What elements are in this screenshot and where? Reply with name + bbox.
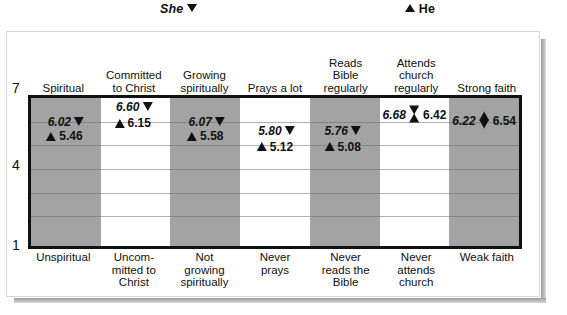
data-point-he: 5.58 <box>187 130 223 142</box>
triangle-down-icon <box>142 102 152 111</box>
triangle-down-icon <box>74 117 84 126</box>
top-category-label-text: Strong faith <box>457 82 516 95</box>
card-shadow-right <box>541 39 546 303</box>
data-point-value-she: 5.76 <box>324 125 347 137</box>
triangle-up-icon <box>324 142 334 151</box>
top-category-label-text: ReadsBibleregularly <box>324 57 368 95</box>
marker-column: 6.226.54 <box>449 98 519 246</box>
y-axis-tick-mid: 4 <box>8 157 24 173</box>
top-category-label-text: Growingspiritually <box>180 69 228 94</box>
triangle-down-icon <box>285 126 295 135</box>
marker-column: 6.025.46 <box>31 98 101 246</box>
triangle-up-icon <box>479 112 489 121</box>
data-point-value-she: 6.22 <box>452 114 475 126</box>
top-category-label-text: Attendschurchregularly <box>394 57 438 95</box>
bottom-category-label: Unspiritual <box>28 249 99 297</box>
triangle-up-icon <box>405 4 415 12</box>
bottom-category-label: Neverprays <box>240 249 311 297</box>
data-point-he: 5.08 <box>324 141 360 153</box>
bottom-category-label: Neverattendschurch <box>381 249 452 297</box>
data-point-he: 5.12 <box>257 141 293 153</box>
triangle-down-icon <box>351 126 361 135</box>
top-category-label: ReadsBibleregularly <box>310 39 381 95</box>
legend-entry-she: She <box>160 2 197 16</box>
legend-label-he: He <box>419 2 435 16</box>
bottom-category-label: Uncom-mitted toChrist <box>99 249 170 297</box>
data-point-value-she: 6.02 <box>48 116 71 128</box>
top-category-label-text: Committedto Christ <box>106 69 162 94</box>
data-point-value-he: 5.12 <box>270 141 293 153</box>
triangle-up-icon <box>257 142 267 151</box>
bottom-category-label: Notgrowingspiritually <box>169 249 240 297</box>
marker-column: 6.606.15 <box>101 98 171 246</box>
data-point-value-he: 5.46 <box>59 130 82 142</box>
top-category-label: Strong faith <box>451 39 522 95</box>
data-point-she: 6.07 <box>189 116 225 128</box>
y-axis-tick-min: 1 <box>8 237 24 253</box>
triangle-up-icon <box>46 132 56 141</box>
diamond-marker-icon <box>479 112 490 129</box>
card-shadow-bottom <box>14 298 546 303</box>
data-point-value-he: 6.54 <box>493 114 516 126</box>
data-point-value-she: 5.80 <box>258 125 281 137</box>
data-point-she: 6.02 <box>48 116 84 128</box>
top-category-label-text: Spiritual <box>43 82 85 95</box>
data-point-value-he: 6.15 <box>128 117 151 129</box>
data-point-value-he: 5.58 <box>200 130 223 142</box>
data-markers: 6.025.466.606.156.075.585.805.125.765.08… <box>31 98 519 246</box>
data-point-combined: 6.686.42 <box>383 106 447 123</box>
data-point-she: 6.60 <box>116 101 152 113</box>
legend-entry-he: He <box>405 2 435 16</box>
data-point-value-he: 6.42 <box>423 108 446 120</box>
data-point-he: 6.15 <box>115 117 151 129</box>
data-point-value-she: 6.68 <box>383 108 406 120</box>
triangle-down-icon <box>479 120 489 129</box>
plot-area: 6.025.466.606.156.075.585.805.125.765.08… <box>28 95 522 249</box>
data-point-she: 5.76 <box>324 125 360 137</box>
data-point-combined: 6.226.54 <box>452 112 516 129</box>
marker-column: 5.765.08 <box>310 98 380 246</box>
triangle-down-icon <box>187 4 197 12</box>
legend-label-she: She <box>160 2 184 16</box>
triangle-up-icon <box>115 119 125 128</box>
data-point-value-she: 6.60 <box>116 101 139 113</box>
hourglass-marker-icon <box>409 106 420 123</box>
top-category-label: Committedto Christ <box>99 39 170 95</box>
marker-column: 5.805.12 <box>240 98 310 246</box>
bottom-category-label: Weak faith <box>451 249 522 297</box>
data-point-value-she: 6.07 <box>189 116 212 128</box>
marker-column: 6.686.42 <box>380 98 450 246</box>
data-point-he: 5.46 <box>46 130 82 142</box>
marker-column: 6.075.58 <box>170 98 240 246</box>
top-category-label: Growingspiritually <box>169 39 240 95</box>
data-point-she: 5.80 <box>258 125 294 137</box>
triangle-up-icon <box>409 114 419 123</box>
triangle-down-icon <box>215 117 225 126</box>
y-axis-tick-max: 7 <box>8 80 24 96</box>
top-category-label-text: Prays a lot <box>248 82 302 95</box>
top-category-labels: SpiritualCommittedto ChristGrowingspirit… <box>28 39 522 95</box>
top-category-label: Prays a lot <box>240 39 311 95</box>
chart-legend: She He <box>0 0 567 30</box>
triangle-up-icon <box>187 132 197 141</box>
bottom-category-labels: UnspiritualUncom-mitted toChristNotgrowi… <box>28 249 522 297</box>
top-category-label: Spiritual <box>28 39 99 95</box>
bottom-category-label: Neverreads theBible <box>310 249 381 297</box>
data-point-value-he: 5.08 <box>337 141 360 153</box>
top-category-label: Attendschurchregularly <box>381 39 452 95</box>
